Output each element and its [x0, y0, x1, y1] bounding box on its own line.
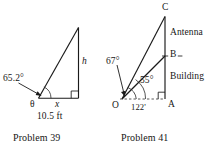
- right-angle-marker-A: [158, 92, 165, 99]
- theta-angle-arc: [44, 87, 51, 98]
- caption-problem-41: Problem 41: [121, 133, 168, 143]
- label-theta: θ: [30, 100, 35, 110]
- label-antenna-segment: Antenna: [170, 28, 203, 38]
- angle-67-leader-line: [117, 65, 124, 94]
- label-base-x: x: [55, 100, 59, 110]
- figure-sheet: 65.2° θ x 10.5 ft h Problem 39 C Antenna…: [0, 0, 215, 152]
- right-angle-marker: [71, 91, 78, 98]
- sightline-to-antenna-top: [122, 17, 165, 100]
- caption-problem-39: Problem 39: [13, 133, 60, 143]
- label-ground-distance: 122': [131, 103, 146, 112]
- label-angle-67: 67°: [106, 57, 120, 67]
- label-height-h: h: [82, 57, 87, 67]
- label-building-segment: Building: [170, 72, 204, 82]
- label-angle-55: 55°: [140, 76, 154, 86]
- label-point-b: B: [170, 50, 176, 60]
- label-point-c: C: [162, 3, 168, 13]
- problem-39-triangle: [19, 28, 79, 99]
- label-point-o: O: [112, 101, 119, 111]
- label-point-a: A: [168, 100, 175, 110]
- label-angle-65-2: 65.2°: [3, 74, 24, 84]
- label-base-measure: 10.5 ft: [37, 112, 63, 122]
